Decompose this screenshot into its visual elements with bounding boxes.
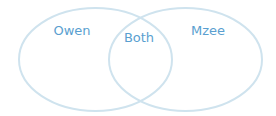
set-circle-owen [19,8,172,111]
set-circle-mzee [109,8,262,111]
set-label-owen: Owen [53,23,90,38]
set-label-mzee: Mzee [191,23,225,38]
intersection-label: Both [124,30,154,45]
venn-diagram: Owen Both Mzee [0,0,276,116]
